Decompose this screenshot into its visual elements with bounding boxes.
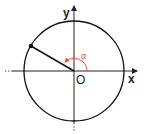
radius-line	[31, 46, 74, 71]
angle-label: α	[81, 51, 86, 61]
y-axis-label: y	[63, 6, 70, 20]
unit-circle-diagram: α y x O	[0, 0, 148, 134]
x-axis-label: x	[128, 72, 135, 86]
point-on-circle	[29, 44, 34, 49]
origin-label: O	[76, 73, 85, 87]
